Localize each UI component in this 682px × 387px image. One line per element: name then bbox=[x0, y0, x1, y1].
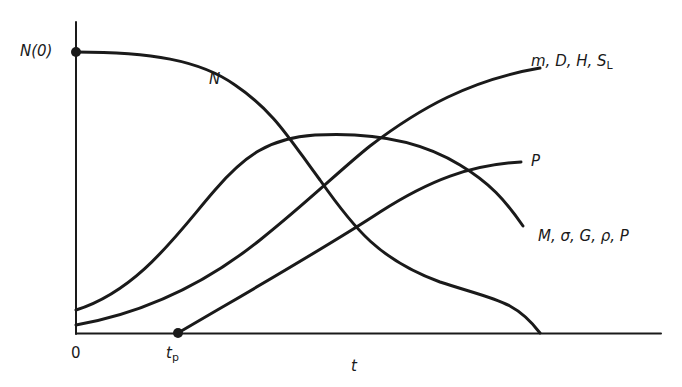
m-group-label: m, D, H, SL bbox=[531, 54, 613, 71]
p-curve-label: P bbox=[531, 154, 540, 169]
n-curve-label: N bbox=[209, 72, 220, 87]
origin-label: 0 bbox=[71, 346, 81, 361]
t-axis-label: t bbox=[351, 359, 357, 374]
big-m-group-label: M, σ, G, ρ, P bbox=[538, 229, 629, 244]
curve-n bbox=[76, 52, 540, 333]
n0-label: N(0) bbox=[20, 44, 52, 59]
curve-m-group bbox=[76, 134, 523, 310]
curve-mdhs bbox=[76, 68, 540, 325]
tp-label: tp bbox=[166, 346, 179, 363]
tp-marker bbox=[173, 328, 183, 338]
n0-marker bbox=[71, 47, 81, 57]
caption-cut-off bbox=[30, 379, 650, 387]
curve-p bbox=[178, 162, 521, 333]
